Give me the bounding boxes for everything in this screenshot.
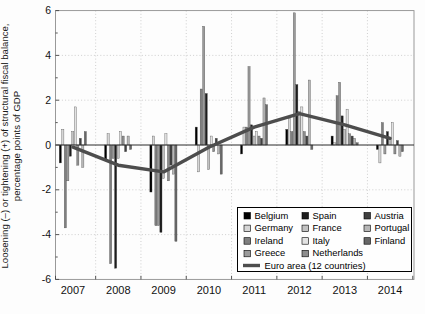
- legend-swatch-belgium: [244, 213, 251, 220]
- bar-netherlands-2008: [122, 136, 124, 145]
- bar-germany-2008: [107, 134, 109, 145]
- x-tick-label-2013: 2013: [333, 284, 357, 296]
- bar-germany-2010: [198, 145, 200, 172]
- bar-greece-2007: [67, 145, 69, 181]
- y-axis-title-line1: Loosening (–) or tightening (+) of struc…: [0, 23, 10, 268]
- bar-portugal-2008: [127, 136, 129, 145]
- y-tick-label--6: -6: [42, 273, 51, 285]
- bar-finland-2009: [175, 145, 177, 241]
- bar-belgium-2013: [331, 136, 333, 145]
- bar-greece-2014: [384, 145, 386, 154]
- bar-portugal-2007: [82, 145, 84, 167]
- bar-greece-2009: [157, 145, 159, 226]
- x-tick-label-2008: 2008: [106, 284, 130, 296]
- legend-swatch-germany: [244, 225, 251, 232]
- bar-portugal-2009: [172, 145, 174, 174]
- legend-label-austria: Austria: [375, 210, 405, 221]
- bar-portugal-2014: [399, 145, 401, 156]
- y-axis-title-line2: percentage points of GDP: [11, 91, 22, 201]
- bar-spain-2013: [341, 116, 343, 145]
- bar-netherlands-2013: [349, 134, 351, 145]
- y-tick-label-0: 0: [45, 139, 51, 151]
- bar-austria-2013: [351, 136, 353, 145]
- x-tick-label-2010: 2010: [197, 284, 221, 296]
- legend-label-greece: Greece: [255, 247, 286, 258]
- bar-spain-2009: [160, 145, 162, 232]
- bar-netherlands-2009: [167, 145, 169, 181]
- bar-austria-2007: [79, 138, 81, 145]
- bar-belgium-2010: [195, 127, 197, 145]
- bar-ireland-2010: [200, 89, 202, 145]
- legend-label-france: France: [313, 222, 342, 233]
- y-tick-label-4: 4: [45, 49, 51, 61]
- legend-swatch-ireland: [244, 238, 251, 245]
- bar-finland-2012: [311, 145, 313, 149]
- bar-belgium-2007: [59, 145, 61, 163]
- bar-belgium-2014: [376, 145, 378, 149]
- bar-france-2007: [72, 132, 74, 145]
- legend-label-italy: Italy: [313, 235, 331, 246]
- bar-portugal-2013: [354, 138, 356, 145]
- bar-italy-2014: [391, 123, 393, 145]
- bar-austria-2012: [306, 136, 308, 145]
- legend-label-germany: Germany: [255, 222, 294, 233]
- bar-austria-2011: [260, 138, 262, 145]
- x-tick-label-2009: 2009: [151, 284, 175, 296]
- bar-greece-2013: [339, 82, 341, 145]
- y-tick-label--4: -4: [42, 228, 51, 240]
- bar-italy-2011: [255, 132, 257, 145]
- bar-italy-2010: [210, 136, 212, 145]
- legend-swatch-portugal: [364, 225, 371, 232]
- bar-finland-2010: [220, 145, 222, 174]
- bar-france-2013: [344, 129, 346, 145]
- legend-label-ireland: Ireland: [255, 235, 284, 246]
- bar-germany-2012: [288, 118, 290, 145]
- bar-germany-2014: [379, 145, 381, 163]
- chart-canvas: Loosening (–) or tightening (+) of struc…: [0, 0, 425, 314]
- legend-swatch-austria: [364, 213, 371, 220]
- x-tick-label-2012: 2012: [287, 284, 311, 296]
- legend-swatch-finland: [364, 238, 371, 245]
- bar-ireland-2012: [291, 132, 293, 145]
- bar-netherlands-2012: [303, 132, 305, 145]
- legend-box: BelgiumGermanyIrelandGreeceSpainFranceIt…: [238, 208, 412, 272]
- x-tick-label-2011: 2011: [242, 284, 266, 296]
- legend-swatch-france: [302, 225, 309, 232]
- bar-germany-2007: [62, 129, 64, 145]
- bar-france-2011: [253, 136, 255, 145]
- bar-ireland-2007: [64, 145, 66, 228]
- bar-ireland-2013: [336, 96, 338, 145]
- bar-portugal-2010: [218, 145, 220, 154]
- legend-label-finland: Finland: [375, 235, 406, 246]
- bar-belgium-2011: [240, 145, 242, 154]
- bar-ireland-2009: [155, 145, 157, 226]
- bar-austria-2009: [170, 145, 172, 165]
- bar-spain-2007: [69, 145, 71, 156]
- bar-belgium-2012: [286, 129, 288, 145]
- bar-italy-2007: [74, 107, 76, 145]
- legend-label-netherlands: Netherlands: [313, 247, 364, 258]
- bar-austria-2008: [125, 145, 127, 152]
- bar-france-2012: [298, 111, 300, 145]
- legend-label-portugal: Portugal: [375, 222, 410, 233]
- y-tick-label-2: 2: [45, 94, 51, 106]
- legend-label-belgium: Belgium: [255, 210, 289, 221]
- legend-swatch-netherlands: [302, 250, 309, 256]
- bar-italy-2008: [120, 132, 122, 145]
- bar-germany-2009: [152, 136, 154, 145]
- bar-netherlands-2011: [258, 136, 260, 145]
- bar-finland-2008: [130, 145, 132, 149]
- bar-finland-2014: [401, 145, 403, 152]
- bar-portugal-2012: [308, 80, 310, 145]
- legend-swatch-spain: [302, 213, 309, 220]
- bar-greece-2010: [203, 26, 205, 145]
- bar-portugal-2011: [263, 98, 265, 145]
- bar-italy-2009: [165, 134, 167, 145]
- bar-netherlands-2014: [394, 145, 396, 154]
- bar-spain-2010: [205, 93, 207, 145]
- y-tick-label--2: -2: [42, 183, 51, 195]
- legend-label-euro-area: Euro area (12 countries): [265, 260, 366, 271]
- bar-greece-2008: [112, 145, 114, 158]
- bar-austria-2014: [396, 141, 398, 145]
- bar-france-2008: [117, 145, 119, 158]
